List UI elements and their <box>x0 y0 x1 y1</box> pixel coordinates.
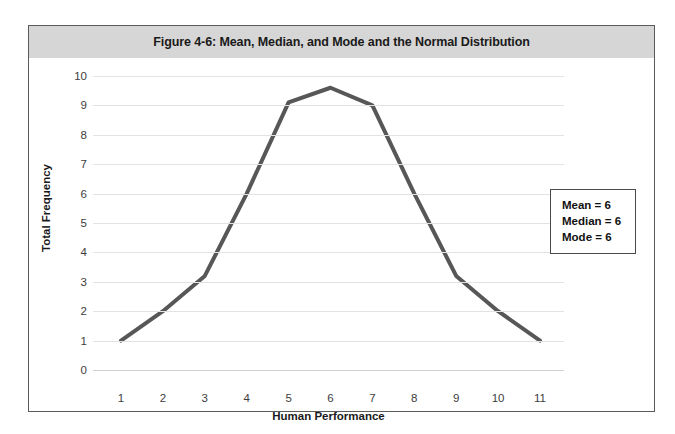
gridline <box>93 194 564 195</box>
y-tick-label: 9 <box>57 99 87 111</box>
frequency-polyline <box>121 88 540 341</box>
gridline <box>93 252 564 253</box>
y-tick-label: 10 <box>57 70 87 82</box>
gridline <box>93 105 564 106</box>
stat-mode: Mode = 6 <box>562 229 635 245</box>
x-axis-title: Human Performance <box>93 410 564 422</box>
gridline <box>93 370 564 371</box>
stats-legend-box: Mean = 6 Median = 6 Mode = 6 <box>550 189 636 254</box>
y-tick-label: 5 <box>57 217 87 229</box>
x-tick-label: 6 <box>327 392 333 404</box>
x-tick-label: 5 <box>285 392 291 404</box>
gridline <box>93 164 564 165</box>
y-axis-title: Total Frequency <box>35 58 57 358</box>
y-axis-tick-labels: 012345678910 <box>57 58 87 388</box>
x-axis-tick-labels: 1234567891011 <box>93 388 564 410</box>
plot-area <box>93 58 564 388</box>
x-tick-label: 4 <box>243 392 249 404</box>
y-tick-label: 0 <box>57 364 87 376</box>
y-tick-label: 8 <box>57 129 87 141</box>
y-tick-label: 7 <box>57 158 87 170</box>
y-axis-title-label: Total Frequency <box>40 164 52 252</box>
figure-title: Figure 4-6: Mean, Median, and Mode and t… <box>153 35 529 49</box>
y-tick-label: 4 <box>57 246 87 258</box>
x-tick-label: 9 <box>453 392 459 404</box>
x-tick-label: 8 <box>411 392 417 404</box>
gridline <box>93 76 564 77</box>
x-tick-label: 10 <box>492 392 505 404</box>
y-tick-label: 1 <box>57 335 87 347</box>
figure-frame: Figure 4-6: Mean, Median, and Mode and t… <box>28 25 655 412</box>
stat-mean: Mean = 6 <box>562 197 635 213</box>
x-tick-label: 3 <box>202 392 208 404</box>
gridline <box>93 223 564 224</box>
x-tick-label: 7 <box>369 392 375 404</box>
y-tick-label: 3 <box>57 276 87 288</box>
gridline <box>93 341 564 342</box>
stat-median: Median = 6 <box>562 213 635 229</box>
x-tick-label: 2 <box>160 392 166 404</box>
chart-body: Total Frequency 012345678910 12345678910… <box>29 58 654 411</box>
x-tick-label: 1 <box>118 392 124 404</box>
x-tick-label: 11 <box>534 392 546 404</box>
y-tick-label: 2 <box>57 305 87 317</box>
figure-title-band: Figure 4-6: Mean, Median, and Mode and t… <box>29 26 654 58</box>
gridline <box>93 311 564 312</box>
gridline <box>93 282 564 283</box>
gridline <box>93 135 564 136</box>
y-tick-label: 6 <box>57 188 87 200</box>
